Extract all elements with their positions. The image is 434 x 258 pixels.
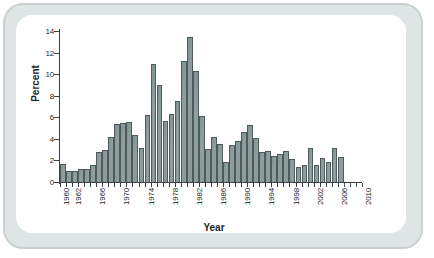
bar	[96, 152, 102, 182]
bar	[308, 148, 314, 183]
bar	[199, 116, 205, 182]
x-tick-mark	[308, 183, 309, 187]
x-tick-label: 2010	[363, 188, 372, 205]
x-tick-mark	[283, 183, 284, 187]
x-axis-title: Year	[60, 222, 368, 233]
x-tick-label: 2006	[339, 188, 348, 205]
bar	[120, 123, 126, 182]
x-tick-mark	[332, 183, 333, 187]
x-tick-mark	[181, 183, 182, 187]
x-tick-mark	[90, 183, 91, 187]
x-tick-label: 1986	[219, 188, 228, 205]
bar	[151, 64, 157, 182]
x-tick-mark	[139, 183, 140, 187]
x-tick-mark	[326, 183, 327, 187]
x-tick-label: 1974	[146, 188, 155, 205]
x-tick-mark	[247, 183, 248, 187]
bar	[205, 149, 211, 182]
x-axis-tick-labels: 1960196219661970197419781982198619901994…	[60, 188, 376, 218]
x-tick-mark	[338, 183, 339, 187]
x-tick-mark	[72, 183, 73, 187]
x-tick-mark	[271, 183, 272, 187]
bar	[145, 115, 151, 182]
bar	[217, 144, 223, 182]
x-tick-mark	[350, 183, 351, 187]
bar	[132, 135, 138, 182]
x-tick-label: 1960	[62, 188, 71, 205]
y-tick-label: 10	[46, 70, 55, 79]
bar	[157, 85, 163, 182]
x-tick-mark	[259, 183, 260, 187]
y-tick-mark	[54, 182, 59, 183]
bar	[102, 150, 108, 182]
bar	[302, 165, 308, 182]
bar	[247, 125, 253, 182]
x-tick-label: 1998	[291, 188, 300, 205]
bar	[229, 145, 235, 182]
x-tick-label: 2002	[315, 188, 324, 205]
x-tick-mark	[344, 183, 345, 187]
x-tick-label: 1982	[194, 188, 203, 205]
x-tick-mark	[277, 183, 278, 187]
x-tick-label: 1962	[74, 188, 83, 205]
bar	[139, 148, 145, 182]
x-tick-mark	[211, 183, 212, 187]
x-tick-mark	[108, 183, 109, 187]
figure-root: Percent 02468101214 19601962196619701974…	[0, 0, 434, 258]
x-tick-mark	[120, 183, 121, 187]
bar	[181, 61, 187, 182]
x-tick-mark	[60, 183, 61, 187]
bar	[169, 114, 175, 182]
x-tick-mark	[66, 183, 67, 187]
bar	[235, 141, 241, 182]
bar	[193, 71, 199, 182]
bar	[175, 101, 181, 182]
x-tick-mark	[114, 183, 115, 187]
x-tick-mark	[84, 183, 85, 187]
x-tick-mark	[302, 183, 303, 187]
y-tick-mark	[54, 117, 59, 118]
y-tick-mark	[54, 160, 59, 161]
x-tick-mark	[289, 183, 290, 187]
bar	[332, 148, 338, 183]
x-tick-mark	[296, 183, 297, 187]
bar	[114, 124, 120, 182]
bar	[283, 151, 289, 182]
x-tick-mark	[151, 183, 152, 187]
x-tick-mark	[193, 183, 194, 187]
y-tick-mark	[54, 139, 59, 140]
bar	[253, 138, 259, 182]
x-tick-mark	[253, 183, 254, 187]
y-tick-label: 12	[46, 48, 55, 57]
x-tick-label: 1966	[98, 188, 107, 205]
x-tick-mark	[126, 183, 127, 187]
bar	[271, 156, 277, 182]
x-tick-mark	[169, 183, 170, 187]
bar	[84, 169, 90, 182]
bar	[108, 137, 114, 182]
x-tick-mark	[145, 183, 146, 187]
bar	[187, 37, 193, 182]
bar	[78, 169, 84, 182]
x-tick-mark	[199, 183, 200, 187]
bar	[296, 167, 302, 182]
x-tick-mark	[157, 183, 158, 187]
x-tick-mark	[223, 183, 224, 187]
y-tick-label: 14	[46, 27, 55, 36]
bar	[326, 162, 332, 182]
bar	[60, 164, 66, 182]
x-tick-mark	[187, 183, 188, 187]
x-tick-mark	[78, 183, 79, 187]
bar	[289, 159, 295, 182]
x-tick-label: 1990	[243, 188, 252, 205]
plot-area	[60, 31, 368, 182]
x-tick-mark	[320, 183, 321, 187]
bar	[241, 132, 247, 182]
bar	[66, 171, 72, 182]
bar	[314, 165, 320, 182]
bar	[259, 152, 265, 182]
bar	[126, 122, 132, 182]
y-tick-mark	[54, 96, 59, 97]
bar	[338, 157, 344, 182]
y-tick-mark	[54, 74, 59, 75]
